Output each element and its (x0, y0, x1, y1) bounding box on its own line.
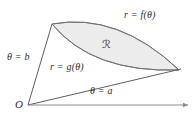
label-origin: O (15, 99, 23, 110)
label-outer-curve: r = f(θ) (124, 10, 156, 20)
label-ray-theta-b: θ = b (7, 52, 30, 62)
polar-region-figure: r = f(θ) r = g(θ) θ = b θ = a O ℛ (0, 0, 195, 118)
label-region-R: ℛ (102, 39, 111, 50)
ray-theta-b (28, 24, 52, 105)
label-ray-theta-a: θ = a (90, 86, 113, 96)
label-inner-curve: r = g(θ) (50, 62, 84, 72)
